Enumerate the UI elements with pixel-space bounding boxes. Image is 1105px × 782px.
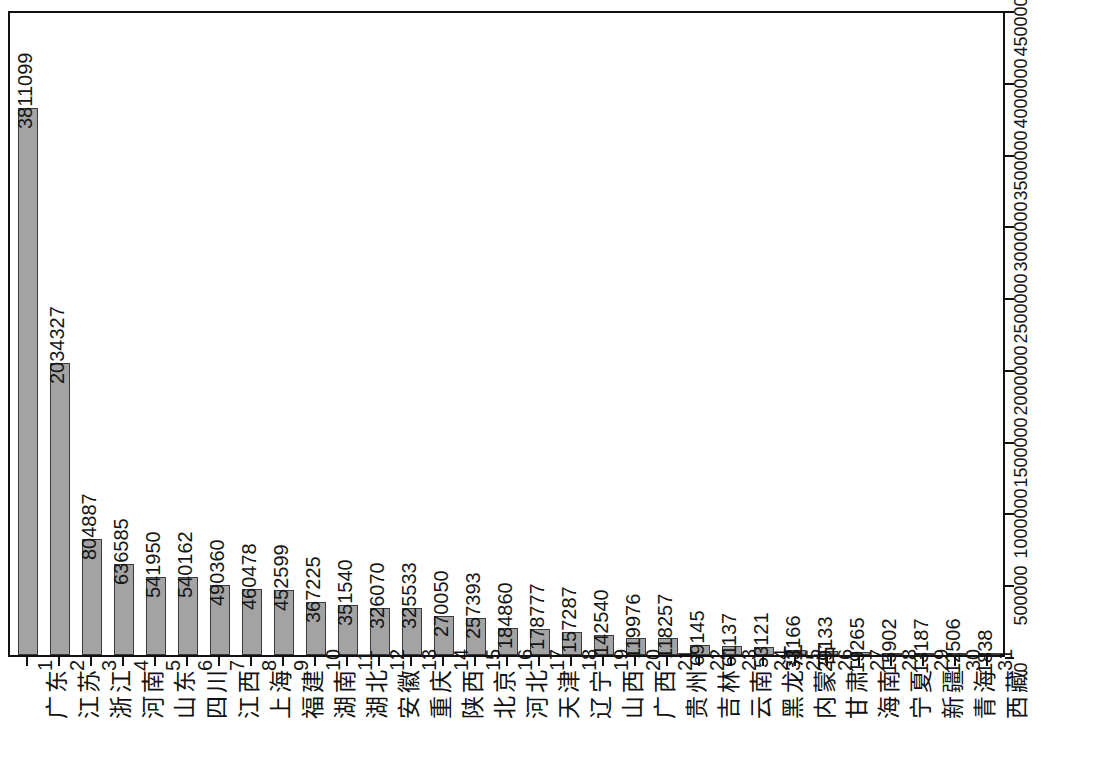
x-axis-tick: [282, 657, 284, 666]
x-axis-tick: [186, 657, 188, 666]
plot-area: 3811099203432780488763658554195054016249…: [8, 11, 1005, 657]
x-axis-tick: [666, 657, 668, 666]
x-axis-tick: [218, 657, 220, 666]
bar-value-label: 367225: [302, 557, 325, 624]
x-axis-category-label: 河南: [134, 667, 168, 719]
y-axis-tick-label: 4000000: [1011, 58, 1032, 128]
x-axis-tick: [954, 657, 956, 666]
x-axis-tick: [794, 657, 796, 666]
x-axis-category-label: 山东: [166, 667, 200, 719]
x-axis-tick: [506, 657, 508, 666]
x-axis-tick: [154, 657, 156, 666]
bar-value-label: 326070: [366, 562, 389, 629]
bar-value-label: 178777: [526, 584, 549, 651]
x-axis-category-label: 青海: [966, 667, 1000, 719]
bar-value-label: 804887: [78, 494, 101, 561]
y-axis-tick-label: 500000: [1011, 566, 1032, 626]
bar-value-label: 452599: [270, 544, 293, 611]
x-axis-category-label: 北京: [486, 667, 520, 719]
x-axis-category-label: 安徽: [390, 667, 424, 719]
bar-value-label: 540162: [174, 532, 197, 599]
x-axis-category-label: 西藏: [998, 667, 1032, 719]
x-axis-category-label: 海南: [870, 667, 904, 719]
x-axis-category-label: 宁夏: [902, 667, 936, 719]
x-axis-tick: [346, 657, 348, 666]
x-axis-tick: [122, 657, 124, 666]
bar-value-label: 490360: [206, 539, 229, 606]
x-axis-category-label: 江苏: [70, 667, 104, 719]
chart-canvas: 3811099203432780488763658554195054016249…: [0, 0, 1105, 782]
x-axis-tick: [378, 657, 380, 666]
x-axis-category-label: 陕西: [454, 667, 488, 719]
x-axis-tick: [570, 657, 572, 666]
y-axis-tick-label: 3000000: [1011, 202, 1032, 272]
x-axis-category-label: 河北: [518, 667, 552, 719]
bar: [50, 363, 70, 655]
y-axis-tick-label: 4500000: [1011, 0, 1032, 57]
y-axis-tick-label: 2500000: [1011, 274, 1032, 344]
x-axis-category-label: 新疆: [934, 667, 968, 719]
x-axis-category-label: 福建: [294, 667, 328, 719]
bar-value-label: 157287: [558, 587, 581, 654]
x-axis-category-label: 吉林: [710, 667, 744, 719]
x-axis-category-label: 四川: [198, 667, 232, 719]
x-axis-category-label: 甘肃: [838, 667, 872, 719]
x-axis-category-label: 重庆: [422, 667, 456, 719]
x-axis-tick: [314, 657, 316, 666]
x-axis-category-label: 广西: [646, 667, 680, 719]
x-axis-category-label: 云南: [742, 667, 776, 719]
x-axis-category-label: 上海: [262, 667, 296, 719]
bar-value-label: 3811099: [14, 53, 37, 129]
x-axis-tick: [826, 657, 828, 666]
y-axis-tick-label: 1000000: [1011, 489, 1032, 559]
x-axis-tick: [474, 657, 476, 666]
x-axis-tick: [26, 657, 28, 666]
bar-value-label: 460478: [238, 543, 261, 610]
y-axis-tick-label: 3500000: [1011, 130, 1032, 200]
x-axis-tick: [698, 657, 700, 666]
x-axis-bottom: 1广东2江苏3浙江4河南5山东6四川7江西8上海9福建10湖南11湖北12安徽1…: [8, 657, 1005, 782]
bar-value-label: 541950: [142, 531, 165, 598]
x-axis-category-label: 浙江: [102, 667, 136, 719]
y-axis-tick-label: 1500000: [1011, 417, 1032, 487]
x-axis-tick: [858, 657, 860, 666]
x-axis-tick: [250, 657, 252, 666]
x-axis-tick: [922, 657, 924, 666]
x-axis-tick: [90, 657, 92, 666]
bar-value-label: 184860: [494, 583, 517, 650]
bar-value-label: 270050: [430, 570, 453, 637]
bar-value-label: 2034327: [46, 306, 69, 384]
x-axis-category-label: 辽宁: [582, 667, 616, 719]
x-axis-category-label: 湖北: [358, 667, 392, 719]
x-axis-category-label: 贵州: [678, 667, 712, 719]
x-axis-category-label: 湖南: [326, 667, 360, 719]
x-axis-tick: [634, 657, 636, 666]
y-axis-right: 0500000100000015000002000000250000030000…: [1005, 11, 1105, 657]
x-axis-category-label: 山西: [614, 667, 648, 719]
x-axis-tick: [538, 657, 540, 666]
y-axis-tick-label: 2000000: [1011, 345, 1032, 415]
x-axis-tick: [602, 657, 604, 666]
x-axis-tick: [730, 657, 732, 666]
bar-value-label: 351540: [334, 559, 357, 626]
x-axis-tick: [762, 657, 764, 666]
x-axis-category-label: 天津: [550, 667, 584, 719]
bar-value-label: 636585: [110, 518, 133, 585]
x-axis-tick: [410, 657, 412, 666]
x-axis-tick: [986, 657, 988, 666]
bar-value-label: 142540: [590, 589, 613, 656]
x-axis-category-label: 广东: [38, 667, 72, 719]
x-axis-category-label: 江西: [230, 667, 264, 719]
bar-value-label: 325533: [398, 563, 421, 630]
bars-layer: 3811099203432780488763658554195054016249…: [10, 13, 1003, 655]
bar: [18, 108, 38, 655]
x-axis-tick: [890, 657, 892, 666]
x-axis-tick: [442, 657, 444, 666]
bar-value-label: 257393: [462, 572, 485, 639]
x-axis-tick: [58, 657, 60, 666]
